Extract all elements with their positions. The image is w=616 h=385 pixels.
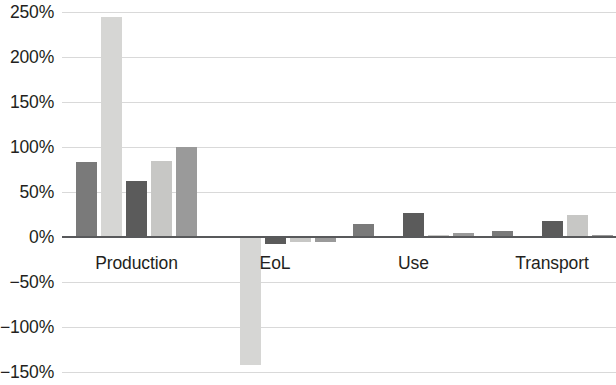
x-category-label: Production (95, 253, 178, 274)
gridline-100 (62, 147, 616, 148)
bar (76, 162, 97, 237)
gridline-150 (62, 102, 616, 103)
y-tick-label: −150% (0, 362, 54, 383)
x-category-label: EoL (260, 253, 291, 274)
y-tick-label: 200% (10, 47, 54, 68)
zero-axis-line (62, 236, 616, 238)
bar (126, 181, 147, 237)
bar (542, 221, 563, 237)
bar (403, 213, 424, 237)
bar (151, 161, 172, 237)
y-tick-label: 50% (20, 182, 54, 203)
gridline-neg100 (62, 327, 616, 328)
y-axis: 250%200%150%100%50%0%−50%−100%−150% (0, 0, 62, 385)
x-category-label: Transport (515, 253, 588, 274)
gridline-neg150 (62, 372, 616, 373)
bar (240, 237, 261, 365)
x-category-label: Use (398, 253, 429, 274)
plot-area: ProductionEoLUseTransport (62, 0, 616, 385)
gridline-neg50 (62, 282, 616, 283)
y-tick-label: −50% (10, 272, 54, 293)
y-tick-label: 100% (10, 137, 54, 158)
y-tick-label: 150% (10, 92, 54, 113)
gridline-200 (62, 57, 616, 58)
y-tick-label: −100% (0, 317, 54, 338)
bar (101, 17, 122, 237)
y-tick-label: 250% (10, 2, 54, 23)
bar (176, 147, 197, 237)
bar-chart: 250%200%150%100%50%0%−50%−100%−150% Prod… (0, 0, 616, 385)
gridline-250 (62, 12, 616, 13)
bar (265, 237, 286, 244)
bar (567, 215, 588, 237)
y-tick-label: 0% (29, 227, 54, 248)
